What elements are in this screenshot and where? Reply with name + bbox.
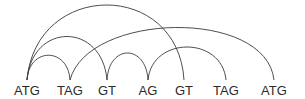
node-label: ATG [14,83,40,98]
node-label: AG [139,83,158,98]
node-label: GT [98,83,116,98]
node-label: ATG [261,83,287,98]
arc-atg-gt [27,37,107,81]
labels-group: ATG TAG GT AG GT TAG ATG [14,83,287,98]
arc-diagram: ATG TAG GT AG GT TAG ATG [0,0,305,99]
arc-atg-tag [27,55,70,80]
node-label: GT [175,83,193,98]
arc-gt-ag [107,53,148,80]
node-label: TAG [213,83,239,98]
node-label: TAG [57,83,83,98]
arcs-group [27,5,274,80]
arc-tag-atg [70,27,274,80]
arc-ag-tag [148,47,226,80]
